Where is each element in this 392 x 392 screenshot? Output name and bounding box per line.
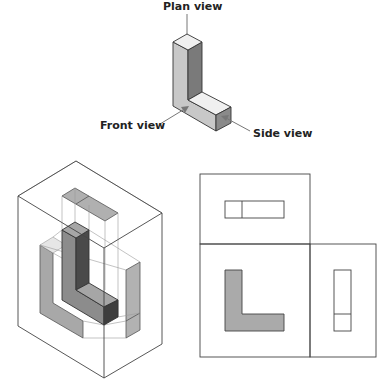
plan-view-panel <box>200 174 310 244</box>
side-view-shape <box>334 270 351 331</box>
side-view-panel <box>310 244 376 357</box>
front-view-panel <box>200 244 310 357</box>
column-side-face <box>188 42 202 100</box>
isometric-l-block: Plan view Front view Side view <box>100 0 312 140</box>
glass-box-projection <box>18 161 162 378</box>
front-view-label: Front view <box>100 119 165 132</box>
projection-diagram: Plan view Front view Side view <box>0 0 392 392</box>
plan-view-shape <box>225 201 284 218</box>
block-side-face <box>76 230 89 290</box>
side-arrow <box>226 118 250 131</box>
side-projection-on-wall <box>126 262 140 338</box>
unfolded-views <box>200 174 376 357</box>
side-view-label: Side view <box>253 127 312 140</box>
plan-projection-on-top <box>62 188 118 221</box>
front-view-shape <box>225 270 284 331</box>
plan-view-label: Plan view <box>163 0 222 13</box>
